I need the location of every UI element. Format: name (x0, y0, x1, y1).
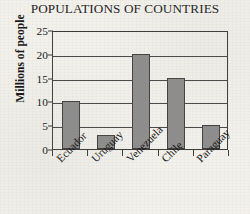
y-tick-label-5: 5 (14, 120, 48, 132)
x-tick-mark-end (228, 150, 229, 156)
y-tick-label-0: 0 (14, 144, 48, 156)
y-tick-label-15: 15 (14, 73, 48, 85)
y-tick-label-25: 25 (14, 25, 48, 37)
bar-chart-figure: POPULATIONS OF COUNTRIES Millions of peo… (0, 0, 250, 214)
x-tick-mark-0 (52, 150, 53, 156)
y-tick-label-10: 10 (14, 96, 48, 108)
y-tick-label-20: 20 (14, 49, 48, 61)
chart-title: POPULATIONS OF COUNTRIES (0, 1, 250, 17)
